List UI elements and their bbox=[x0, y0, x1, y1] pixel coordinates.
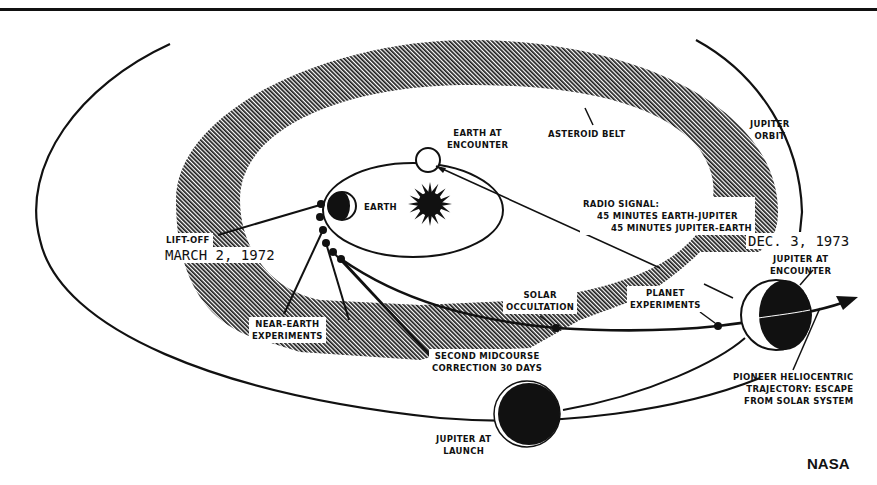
solar-occultation-line-2: OCCULTATION bbox=[506, 301, 574, 313]
jupiter-at-encounter-line-1: JUPITER AT bbox=[770, 253, 831, 265]
near-earth-experiments-line-2: EXPERIMENTS bbox=[252, 330, 323, 342]
nasa-credit: NASA bbox=[807, 455, 850, 472]
pioneer-trajectory-line-1: PIONEER HELIOCENTRIC bbox=[733, 371, 853, 383]
radio-signal-line-1: RADIO SIGNAL: bbox=[583, 198, 752, 210]
pioneer-trajectory-diagram: ASTEROID BELT JUPITER ORBIT EARTH AT ENC… bbox=[0, 0, 877, 485]
jupiter-at-encounter-label: JUPITER AT ENCOUNTER bbox=[770, 253, 831, 277]
radio-signal-line-2: 45 MINUTES EARTH-JUPITER bbox=[583, 210, 752, 222]
earth-at-encounter-label: EARTH AT ENCOUNTER bbox=[447, 127, 508, 151]
radio-signal-label: RADIO SIGNAL: 45 MINUTES EARTH-JUPITER 4… bbox=[580, 197, 755, 235]
near-earth-experiments-label: NEAR-EARTH EXPERIMENTS bbox=[249, 317, 326, 343]
radio-signal-line-3: 45 MINUTES JUPITER-EARTH bbox=[583, 222, 752, 234]
planet-experiments-line-1: PLANET bbox=[630, 287, 701, 299]
planet-experiments-line-2: EXPERIMENTS bbox=[630, 299, 701, 311]
pioneer-trajectory-label: PIONEER HELIOCENTRIC TRAJECTORY: ESCAPE … bbox=[733, 371, 853, 407]
earth-at-encounter-line-2: ENCOUNTER bbox=[447, 139, 508, 151]
second-midcourse-label: SECOND MIDCOURSE CORRECTION 30 DAYS bbox=[429, 349, 545, 375]
near-earth-experiments-line-1: NEAR-EARTH bbox=[252, 318, 323, 330]
sun-icon bbox=[408, 182, 452, 226]
earth-at-encounter-icon bbox=[416, 148, 440, 172]
jupiter-at-launch-label: JUPITER AT LAUNCH bbox=[436, 433, 491, 457]
earth-icon bbox=[328, 192, 356, 220]
jupiter-orbit-line-2: ORBIT bbox=[750, 130, 790, 142]
pioneer-trajectory-line-3: FROM SOLAR SYSTEM bbox=[733, 395, 853, 407]
second-midcourse-line-2: CORRECTION 30 DAYS bbox=[432, 362, 542, 374]
planet-experiments-label: PLANET EXPERIMENTS bbox=[627, 286, 704, 312]
jupiter-at-encounter-line-2: ENCOUNTER bbox=[770, 265, 831, 277]
solar-occultation-label: SOLAR OCCULTATION bbox=[503, 288, 577, 314]
pioneer-trajectory-line-2: TRAJECTORY: ESCAPE bbox=[733, 383, 853, 395]
jupiter-icon bbox=[741, 280, 811, 350]
jupiter-orbit-label: JUPITER ORBIT bbox=[750, 118, 790, 142]
jupiter-at-launch-icon bbox=[494, 381, 560, 447]
lift-off-date: MARCH 2, 1972 bbox=[163, 247, 277, 263]
asteroid-belt-leader bbox=[585, 108, 593, 125]
lift-off-label: LIFT-OFF bbox=[163, 233, 213, 247]
jupiter-at-launch-line-1: JUPITER AT bbox=[436, 433, 491, 445]
earth-label: EARTH bbox=[364, 201, 397, 213]
earth-at-encounter-line-1: EARTH AT bbox=[447, 127, 508, 139]
encounter-date: DEC. 3, 1973 bbox=[746, 233, 851, 249]
second-midcourse-line-1: SECOND MIDCOURSE bbox=[432, 350, 542, 362]
asteroid-belt-label: ASTEROID BELT bbox=[548, 128, 625, 140]
jupiter-at-launch-line-2: LAUNCH bbox=[436, 445, 491, 457]
jupiter-orbit-line-1: JUPITER bbox=[750, 118, 790, 130]
solar-occultation-line-1: SOLAR bbox=[506, 289, 574, 301]
